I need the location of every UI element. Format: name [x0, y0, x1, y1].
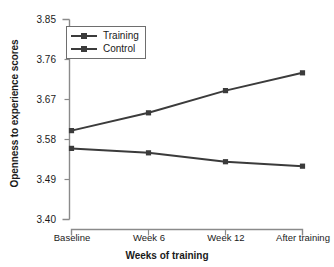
- y-axis-ticks: [65, 60, 70, 180]
- data-point-marker: [223, 159, 228, 164]
- x-axis-title: Weeks of training: [0, 250, 334, 261]
- legend-line-marker-icon: [71, 43, 97, 54]
- data-series-layer: [69, 70, 305, 169]
- series-line-training: [72, 73, 303, 131]
- legend-label: Training: [103, 30, 139, 41]
- legend-item-training: Training: [71, 29, 139, 42]
- x-tick-label-baseline: Baseline: [36, 233, 108, 243]
- data-point-marker: [146, 110, 151, 115]
- data-point-marker: [300, 164, 305, 169]
- data-point-marker: [300, 70, 305, 75]
- series-line-control: [72, 148, 303, 166]
- x-tick-label-week-6: Week 6: [113, 233, 185, 243]
- data-point-marker: [223, 88, 228, 93]
- legend: Training Control: [66, 26, 146, 59]
- data-point-marker: [146, 150, 151, 155]
- data-point-marker: [69, 128, 74, 133]
- chart-container: Openness to experience scores 3.85 3.76 …: [0, 0, 334, 267]
- plot-area: [0, 0, 334, 267]
- x-tick-label-week-12: Week 12: [190, 233, 262, 243]
- legend-item-control: Control: [71, 42, 139, 55]
- x-tick-label-after-training: After training: [258, 233, 334, 243]
- legend-label: Control: [103, 43, 135, 54]
- data-point-marker: [69, 146, 74, 151]
- legend-line-marker-icon: [71, 30, 97, 41]
